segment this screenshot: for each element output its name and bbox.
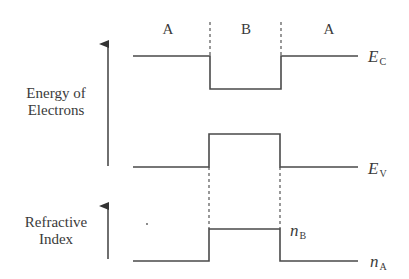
energy-axis-label: Energy of Electrons: [14, 85, 98, 119]
refractive-axis-label-line2: Index: [14, 231, 98, 248]
region-label-b: B: [236, 21, 256, 38]
n-low-label: nA: [370, 253, 387, 275]
energy-axis-label-line2: Electrons: [14, 102, 98, 119]
valence-band-line: [133, 134, 358, 167]
refractive-axis-label-line1: Refractive: [14, 214, 98, 231]
valence-band-label: EV: [368, 160, 387, 182]
region-label-a-right: A: [319, 21, 339, 38]
conduction-band-line: [133, 56, 358, 89]
refractive-index-line: [133, 229, 358, 261]
energy-axis-label-line1: Energy of: [14, 85, 98, 102]
n-high-label: nB: [290, 222, 306, 244]
conduction-band-label: EC: [368, 48, 386, 70]
refractive-axis-label: Refractive Index: [14, 214, 98, 248]
region-label-a-left: A: [158, 21, 178, 38]
stray-dot: [146, 223, 148, 225]
